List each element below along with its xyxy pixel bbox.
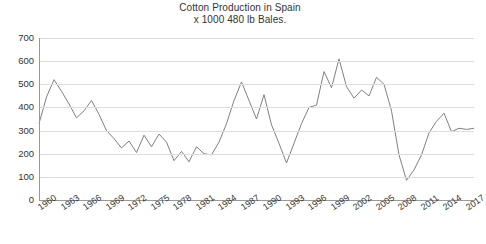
page-title: Cotton Production in Spain xyxy=(0,2,480,14)
y-axis-line xyxy=(39,38,40,201)
y-tick-label: 300 xyxy=(4,125,34,136)
gridline xyxy=(39,154,474,155)
line-series-cotton-production xyxy=(39,38,474,200)
plot-area xyxy=(39,38,474,200)
chart-subtitle: x 1000 480 lb Bales. xyxy=(0,14,480,26)
gridline xyxy=(39,38,474,39)
x-axis-tick-labels: 1960196319661969197219751978198119841987… xyxy=(0,204,480,244)
y-tick-label: 500 xyxy=(4,78,34,89)
y-tick-label: 600 xyxy=(4,55,34,66)
y-tick-label: 400 xyxy=(4,101,34,112)
gridline xyxy=(39,84,474,85)
y-tick-label: 700 xyxy=(4,32,34,43)
chart-title-block: Cotton Production in Spain x 1000 480 lb… xyxy=(0,2,480,26)
gridline xyxy=(39,61,474,62)
y-axis-tick-labels: 7006005004003002001000 xyxy=(0,38,34,200)
y-tick-label: 100 xyxy=(4,171,34,182)
gridline xyxy=(39,107,474,108)
gridline xyxy=(39,131,474,132)
y-tick-label: 200 xyxy=(4,148,34,159)
gridline xyxy=(39,177,474,178)
